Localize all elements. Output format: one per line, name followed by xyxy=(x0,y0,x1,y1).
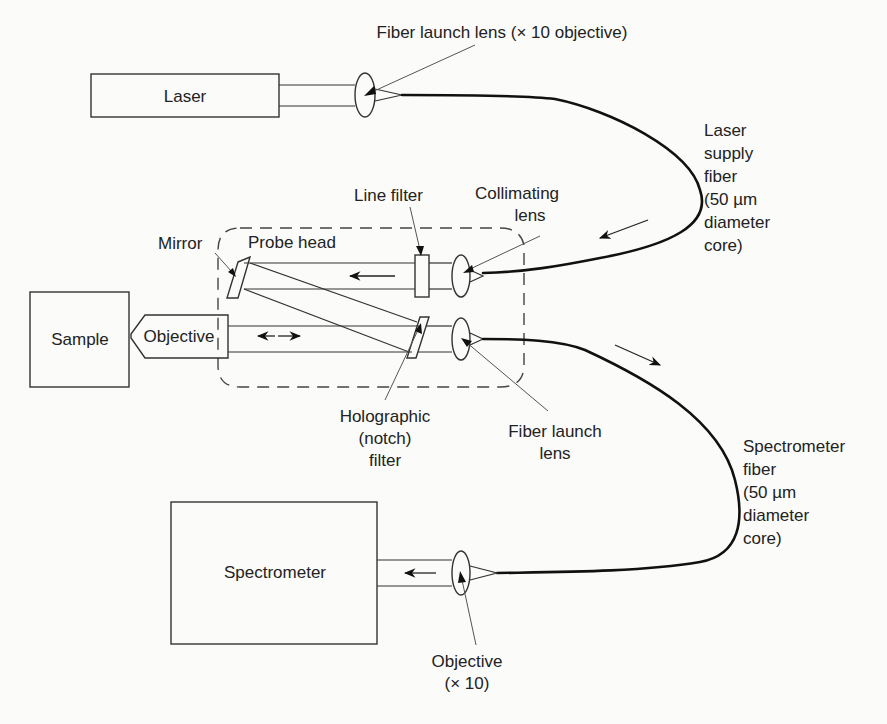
fiber-launch-lens-mid xyxy=(452,318,470,360)
line-filter-label: Line filter xyxy=(354,186,423,205)
laser-unit: Laser xyxy=(91,45,475,117)
svg-text:lens: lens xyxy=(514,206,545,225)
sample-label: Sample xyxy=(51,330,109,349)
svg-text:Laser: Laser xyxy=(704,121,747,140)
excitation-path xyxy=(244,255,483,297)
svg-text:(50 µm: (50 µm xyxy=(704,190,757,209)
laser-supply-fiber-label: Laser supply fiber (50 µm diameter core) xyxy=(704,121,770,255)
svg-text:diameter: diameter xyxy=(704,213,770,232)
raman-probe-diagram: Laser Fiber launch lens (× 10 objective)… xyxy=(0,0,887,724)
objective-label: Objective xyxy=(144,327,215,346)
spectrometer-fiber xyxy=(483,339,739,573)
svg-text:filter: filter xyxy=(369,451,401,470)
objective-x10-label: Objective (× 10) xyxy=(432,652,503,693)
line-filter xyxy=(415,255,429,297)
probe-head-label: Probe head xyxy=(248,233,336,252)
collimating-lens-label: Collimating lens xyxy=(475,184,559,225)
laser-label: Laser xyxy=(164,87,207,106)
svg-text:supply: supply xyxy=(704,144,754,163)
collection-path xyxy=(228,317,483,360)
svg-text:diameter: diameter xyxy=(743,506,809,525)
svg-text:(notch): (notch) xyxy=(359,429,412,448)
svg-text:Fiber launch: Fiber launch xyxy=(508,422,602,441)
collimating-lens xyxy=(452,255,470,297)
laser-direction-arrow xyxy=(600,220,648,238)
svg-text:core): core) xyxy=(704,236,743,255)
fiber-launch-lens-mid-label: Fiber launch lens xyxy=(508,422,602,463)
holographic-filter-label: Holographic (notch) filter xyxy=(340,407,431,470)
svg-text:Holographic: Holographic xyxy=(340,407,431,426)
svg-text:core): core) xyxy=(743,529,782,548)
svg-text:fiber: fiber xyxy=(704,167,737,186)
svg-text:(50 µm: (50 µm xyxy=(743,483,796,502)
svg-text:lens: lens xyxy=(539,444,570,463)
mirror-label: Mirror xyxy=(158,234,203,253)
spectrometer-fiber-label: Spectrometer fiber (50 µm diameter core) xyxy=(743,437,845,548)
spectrometer-label: Spectrometer xyxy=(224,563,326,582)
fiber-launch-lens-top-label: Fiber launch lens (× 10 objective) xyxy=(377,23,628,42)
svg-text:Objective: Objective xyxy=(432,652,503,671)
svg-text:(× 10): (× 10) xyxy=(445,674,490,693)
spectrometer-direction-arrow xyxy=(615,345,660,365)
svg-text:Collimating: Collimating xyxy=(475,184,559,203)
svg-text:Spectrometer: Spectrometer xyxy=(743,437,845,456)
svg-text:fiber: fiber xyxy=(743,460,776,479)
